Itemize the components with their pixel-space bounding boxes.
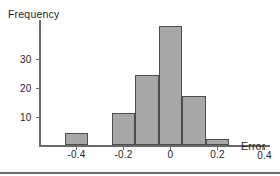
bar-bin-4 <box>112 113 136 145</box>
bar-bin-6 <box>159 26 183 145</box>
y-tick-label-20: 20 <box>20 83 32 94</box>
y-tick-30 <box>36 59 40 60</box>
x-tick-label-neg0-4: -0.4 <box>61 149 92 160</box>
x-tick-label-0: 0 <box>155 149 186 160</box>
x-tick-label-0-2: 0.2 <box>202 149 233 160</box>
bar-bin-2 <box>65 133 89 145</box>
bar-bin-7 <box>182 96 206 145</box>
x-tick-label-neg0-2: -0.2 <box>108 149 139 160</box>
x-axis-line <box>39 145 270 147</box>
y-tick-label-30: 30 <box>20 54 32 65</box>
y-axis-title: Frequency <box>8 8 59 20</box>
y-axis-line <box>39 20 41 147</box>
histogram-figure: Frequency 10 20 30 -0.4 -0.2 0 0.2 <box>0 0 280 176</box>
y-tick-label-10: 10 <box>20 112 32 123</box>
y-tick-10 <box>36 117 40 118</box>
y-tick-20 <box>36 88 40 89</box>
plot-area: Frequency 10 20 30 -0.4 -0.2 0 0.2 <box>0 0 280 176</box>
bar-bin-5 <box>135 75 159 145</box>
page-bottom-rule <box>0 172 280 174</box>
x-axis-title: Error <box>241 140 265 152</box>
bar-bin-8 <box>206 139 230 145</box>
